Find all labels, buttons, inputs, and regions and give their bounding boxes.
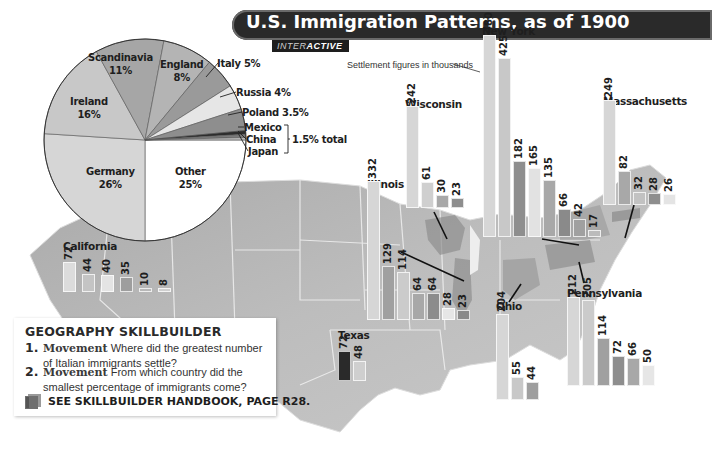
interactive-tag[interactable]: INTERACTIVE [272,40,349,52]
bar-illinois-7 [457,310,470,320]
bar-value-label: 8 [158,279,170,286]
bar-illinois-6 [442,308,455,320]
bar-illinois-4 [412,293,425,320]
bar-value-label: 64 [427,277,439,291]
bar-ohio-3 [526,382,539,400]
bar-texas-1 [338,351,351,381]
bar-value-label: 40 [101,259,113,273]
bar-value-label: 182 [513,138,525,159]
bar-value-label: 42 [573,203,585,217]
bar-value-label: 249 [603,77,615,98]
bar-value-label: 114 [397,249,409,270]
bar-massachusetts-5 [663,194,676,205]
bar-value-label: 72 [612,340,624,354]
bar-pennsylvania-3 [597,338,610,386]
bar-new-york-8 [588,230,601,237]
bar-new-york-6 [558,209,571,237]
bar-value-label: 204 [496,291,508,312]
bar-new-york-7 [573,219,586,237]
bar-value-label: 129 [382,243,394,264]
bar-value-label: 26 [663,178,675,192]
bar-illinois-1 [367,181,380,320]
bar-value-label: 32 [633,176,645,190]
bar-pennsylvania-2 [582,300,595,386]
book-icon [25,394,42,409]
bar-new-york-3 [513,161,526,237]
bar-wisconsin-1 [406,106,419,208]
bar-illinois-5 [427,293,440,320]
bar-value-label: 205 [582,277,594,298]
bar-pennsylvania-4 [612,356,625,386]
bar-california-2 [82,274,95,292]
bar-california-6 [158,288,171,292]
bar-value-label: 242 [406,83,418,104]
bar-value-label: 17 [588,214,600,228]
bar-value-label: 44 [82,258,94,272]
bar-value-label: 23 [457,294,469,308]
bar-new-york-5 [543,180,556,237]
bar-value-label: 66 [627,342,639,356]
bar-value-label: 480 [483,12,495,33]
bar-pennsylvania-6 [642,365,655,386]
bar-value-label: 165 [528,145,540,166]
bar-value-label: 55 [511,361,523,375]
bar-california-4 [120,277,133,292]
bar-value-label: 64 [412,277,424,291]
bar-massachusetts-3 [633,192,646,205]
bar-value-label: 66 [558,193,570,207]
bar-value-label: 82 [618,155,630,169]
note-leader [452,60,482,74]
bar-massachusetts-2 [618,171,631,205]
bar-value-label: 23 [451,182,463,196]
question-2: 2.Movement From which country did the sm… [25,364,275,395]
bar-value-label: 135 [543,157,555,178]
bar-new-york-2 [498,58,511,237]
pie-label-other: Other25% [175,165,206,191]
bar-value-label: 30 [436,179,448,193]
bar-value-label: 44 [526,366,538,380]
bar-value-label: 212 [567,274,579,295]
bar-illinois-2 [382,266,395,320]
pie-label-scandinavia: Scandinavia11% [88,51,153,77]
bar-value-label: 61 [421,166,433,180]
bar-massachusetts-1 [603,100,616,205]
bar-pennsylvania-1 [567,297,580,386]
bar-value-label: 28 [442,292,454,306]
bar-california-5 [139,288,152,292]
bar-value-label: 10 [139,272,151,286]
bar-value-label: 332 [367,158,379,179]
bar-illinois-3 [397,272,410,320]
bar-massachusetts-4 [648,193,661,205]
pie-bracket-label: 1.5% total [292,134,347,145]
skillbuilder-box: GEOGRAPHY SKILLBUILDER 1.Movement Where … [14,318,276,416]
bar-ohio-1 [496,314,509,400]
bar-texas-2 [353,361,366,381]
bar-california-1 [63,262,76,292]
bar-wisconsin-4 [451,198,464,208]
bar-pennsylvania-5 [627,358,640,386]
bar-value-label: 114 [597,315,609,336]
bar-california-3 [101,275,114,292]
page-title: U.S. Immigration Patterns, as of 1900 [246,11,630,32]
bar-value-label: 72 [338,335,350,349]
bar-wisconsin-3 [436,195,449,208]
bar-value-label: 425 [498,35,510,56]
pie-label-germany: Germany26% [86,165,135,191]
bar-ohio-2 [511,377,524,400]
bar-new-york-1 [483,35,496,237]
bar-value-label: 35 [120,261,132,275]
bar-value-label: 50 [642,349,654,363]
bar-wisconsin-2 [421,182,434,208]
bar-value-label: 48 [353,345,365,359]
bar-value-label: 72 [63,246,75,260]
skillbuilder-title: GEOGRAPHY SKILLBUILDER [25,324,222,339]
bar-new-york-4 [528,168,541,237]
pie-label-ireland: Ireland16% [70,95,108,121]
pie-leaders [190,55,290,165]
handbook-link[interactable]: SEE SKILLBUILDER HANDBOOK, PAGE R28. [25,394,310,409]
bar-value-label: 28 [648,177,660,191]
